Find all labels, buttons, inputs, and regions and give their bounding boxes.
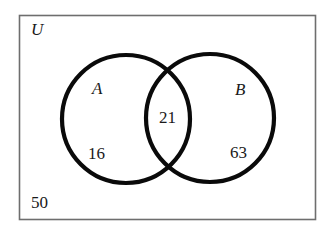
outside-value: 50 — [31, 194, 48, 211]
set-a-label: A — [92, 80, 102, 97]
set-a-only-value: 16 — [88, 145, 105, 162]
set-b-label: B — [235, 81, 245, 98]
set-b-only-value: 63 — [230, 144, 247, 161]
universe-label: U — [31, 21, 43, 38]
intersection-value: 21 — [159, 109, 176, 126]
